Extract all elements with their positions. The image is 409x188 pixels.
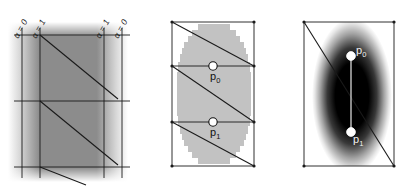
- panel-c-stage: p0 p1: [272, 0, 409, 188]
- panel-c-canvas: [272, 0, 409, 188]
- panel-b-stage: p0 p1: [136, 0, 272, 188]
- panel-b-canvas: [136, 0, 272, 188]
- panel-c-field: [312, 18, 392, 174]
- panel-pixelated-field: p0 p1: [136, 0, 272, 188]
- point-label-p1-sub: 1: [216, 132, 220, 141]
- point-label-p0-sub: 0: [362, 50, 366, 59]
- panel-a-stage: α = 0 α = 1 α = 1 α = 0: [0, 0, 140, 188]
- point-marker-p1: [209, 118, 217, 126]
- point-marker-p0: [347, 52, 356, 61]
- point-label-p1-sub: 1: [359, 139, 363, 148]
- point-label-p0: p0: [356, 44, 366, 59]
- point-label-p0: p0: [210, 70, 220, 85]
- point-label-p1: p1: [353, 133, 363, 148]
- point-label-p0-sub: 0: [216, 76, 220, 85]
- point-marker-p0: [209, 62, 217, 70]
- panel-smooth-gradient: p0 p1: [272, 0, 409, 188]
- point-label-p1: p1: [210, 126, 220, 141]
- figure-root: α = 0 α = 1 α = 1 α = 0: [0, 0, 409, 188]
- panel-alpha-parameter: α = 0 α = 1 α = 1 α = 0: [0, 0, 140, 188]
